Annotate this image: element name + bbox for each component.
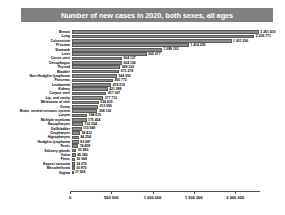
bar (72, 65, 120, 69)
x-axis-tick (111, 191, 112, 194)
bar (72, 74, 117, 78)
bar (72, 136, 79, 140)
bar (72, 114, 87, 118)
x-axis-tick (235, 191, 236, 194)
bar (72, 171, 74, 175)
bar (72, 153, 76, 157)
bar-rows: Breast2 261 419Lung2 206 771Colorectum1 … (0, 30, 285, 175)
x-axis-tick-label: 0 (69, 195, 71, 200)
bar (72, 57, 122, 61)
bar (72, 35, 254, 39)
bar (72, 92, 106, 96)
x-axis-tick (194, 191, 195, 194)
bar (72, 162, 75, 166)
x-axis-tick-label: 1 000 000 (144, 195, 162, 200)
bar (72, 83, 111, 87)
x-axis-tick (153, 191, 154, 194)
bar (72, 39, 232, 43)
bar (72, 131, 80, 135)
bar-value-label: 17 908 (75, 170, 85, 175)
plot-area: Breast2 261 419Lung2 206 771Colorectum1 … (0, 30, 285, 190)
bar (72, 140, 79, 144)
bar (72, 158, 75, 162)
bar (72, 105, 98, 109)
x-axis-tick (70, 191, 71, 194)
bar (72, 149, 76, 153)
bar (72, 61, 122, 65)
bar-row: Vagina17 908 (0, 171, 285, 175)
bar (72, 101, 99, 105)
bar (72, 122, 83, 126)
x-axis-line (70, 191, 260, 192)
x-axis-tick-label: 2 000 000 (226, 195, 244, 200)
chart-title-banner: Number of new cases in 2020, both sexes,… (21, 8, 273, 22)
bar (72, 79, 113, 83)
x-axis-tick-label: 1 500 000 (185, 195, 203, 200)
bar (72, 96, 103, 100)
bar-chart: Number of new cases in 2020, both sexes,… (0, 0, 285, 215)
bar (72, 70, 119, 74)
bar (72, 87, 108, 91)
bar-track: 17 908 (72, 171, 277, 175)
bar (72, 30, 259, 34)
x-axis-tick-label: 500 000 (104, 195, 118, 200)
bar-category-label: Vagina (0, 171, 72, 175)
bar (72, 127, 82, 131)
chart-title: Number of new cases in 2020, both sexes,… (61, 11, 233, 20)
